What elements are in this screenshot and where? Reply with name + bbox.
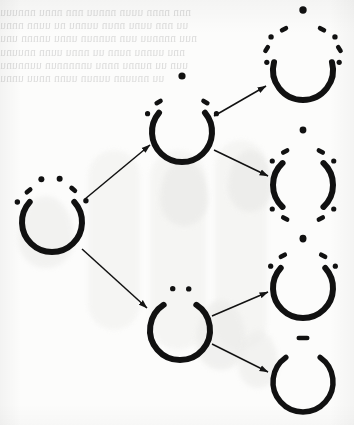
- mark-dot: [299, 6, 306, 13]
- ring-arc: [273, 268, 333, 318]
- mark-dot: [333, 264, 338, 269]
- mark-dot: [38, 176, 44, 182]
- arrow-a3: [214, 86, 266, 116]
- mark-dash: [335, 44, 344, 54]
- diagram-canvas: [0, 0, 354, 425]
- mark-dash: [280, 147, 290, 155]
- mark-dot: [83, 198, 88, 203]
- ring-arc: [150, 305, 210, 360]
- mark-dot: [300, 127, 307, 134]
- mark-dash: [154, 98, 164, 106]
- diagram-node-parent: [15, 176, 89, 252]
- mark-dash: [200, 98, 210, 106]
- ring-arc-left: [273, 163, 283, 207]
- mark-dash: [317, 25, 327, 33]
- diagram-node-upper-mid: [145, 72, 219, 162]
- mark-dash: [68, 185, 78, 194]
- diagram-node-right-2: [270, 127, 337, 243]
- mark-dot: [300, 235, 307, 242]
- mark-dot: [270, 206, 275, 211]
- mark-dash: [279, 25, 289, 33]
- mark-dash: [318, 252, 328, 260]
- arrow-a6: [212, 344, 268, 372]
- diagram-node-right-4: [273, 336, 333, 412]
- mark-dot: [331, 206, 336, 211]
- mark-dot: [268, 34, 273, 39]
- mark-dot: [332, 34, 337, 39]
- arrows-group: [82, 86, 268, 372]
- mark-dot: [145, 111, 150, 116]
- mark-dash: [316, 147, 326, 155]
- diagram-node-right-3: [268, 235, 338, 318]
- diagram-node-right-1: [262, 6, 343, 100]
- mark-dash: [262, 44, 271, 54]
- mark-dot: [337, 60, 342, 65]
- mark-dot: [270, 158, 275, 163]
- mark-dot: [15, 199, 20, 204]
- nodes-group: [15, 6, 344, 412]
- mark-dot: [268, 264, 273, 269]
- diagram-node-lower-mid: [150, 286, 210, 360]
- mark-dot: [214, 111, 219, 116]
- mark-dot: [186, 286, 191, 291]
- mark-dash: [297, 336, 310, 341]
- ring-arc: [22, 202, 82, 252]
- arrow-a1: [85, 145, 150, 199]
- mark-dash: [280, 214, 290, 222]
- ring-arc-right: [323, 163, 333, 207]
- arrow-a4: [214, 150, 268, 176]
- mark-dot: [331, 158, 336, 163]
- ring-arc: [273, 357, 333, 412]
- ring-arc: [152, 113, 212, 162]
- mark-dash: [24, 186, 34, 195]
- ring-arc: [273, 62, 333, 100]
- mark-dash: [278, 252, 288, 260]
- arrow-a2: [82, 249, 147, 308]
- scanned-page: nnn nnnn uuun nnnuu nnn nnnu nnnuuu uu n…: [0, 0, 354, 425]
- mark-dot: [57, 176, 63, 182]
- mark-dot: [178, 72, 185, 79]
- mark-dot: [264, 60, 269, 65]
- mark-dot: [170, 286, 175, 291]
- mark-dash: [316, 214, 326, 222]
- arrow-a5: [212, 292, 268, 316]
